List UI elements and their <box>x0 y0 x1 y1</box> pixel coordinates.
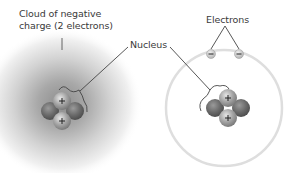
electrons-label: Electrons <box>206 14 249 25</box>
atom-diagram: Cloud of negative charge (2 electrons) N… <box>0 0 297 173</box>
cloud-label-line-2: charge (2 electrons) <box>19 20 113 31</box>
electron-cloud <box>0 28 142 173</box>
right-nucleus <box>206 89 250 127</box>
electron <box>235 50 244 59</box>
electron <box>207 50 216 59</box>
cloud-label-line-1: Cloud of negative <box>19 8 101 19</box>
nucleus-label: Nucleus <box>130 39 167 50</box>
electron-pointer-line <box>211 26 225 49</box>
electron-pointer-line <box>225 26 239 49</box>
